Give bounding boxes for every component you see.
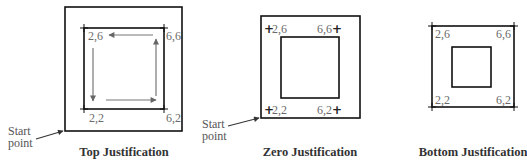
label-bottom-right: 6,2: [166, 111, 181, 125]
point-label: point: [8, 136, 33, 150]
label-top-right: 6,6: [496, 27, 511, 41]
label-top-right: 6,6: [317, 22, 332, 36]
plus-marker-icon: +: [332, 22, 342, 36]
label-bottom-left: 2,2: [435, 93, 450, 107]
start-arrow-icon: [228, 118, 259, 126]
label-top-right: 6,6: [166, 29, 181, 43]
diagram-zero-justification: + 2,6 6,6 + + 2,2 6,2 + Start point Zero…: [202, 16, 360, 159]
caption: Top Justification: [79, 145, 169, 159]
label-bottom-left: 2,2: [272, 103, 287, 117]
plus-marker-icon: +: [332, 103, 342, 117]
point-label: point: [202, 129, 227, 143]
inner-box: [452, 47, 491, 87]
diagram-bottom-justification: 2,6 6,6 2,2 6,2 Bottom Justification: [419, 22, 527, 159]
justification-diagrams: 2,6 6,6 2,2 6,2 Start point Top Justific…: [0, 0, 527, 162]
label-top-left: 2,6: [272, 22, 287, 36]
label-bottom-left: 2,2: [89, 111, 104, 125]
label-bottom-right: 6,2: [496, 93, 511, 107]
diagram-top-justification: 2,6 6,6 2,2 6,2 Start point Top Justific…: [8, 7, 182, 159]
direction-arrows: [93, 35, 156, 101]
label-bottom-right: 6,2: [317, 103, 332, 117]
label-top-left: 2,6: [88, 29, 103, 43]
caption: Zero Justification: [263, 145, 358, 159]
label-top-left: 2,6: [435, 27, 450, 41]
start-arrow-icon: [36, 131, 63, 139]
caption: Bottom Justification: [419, 145, 527, 159]
inner-box: [281, 37, 339, 98]
